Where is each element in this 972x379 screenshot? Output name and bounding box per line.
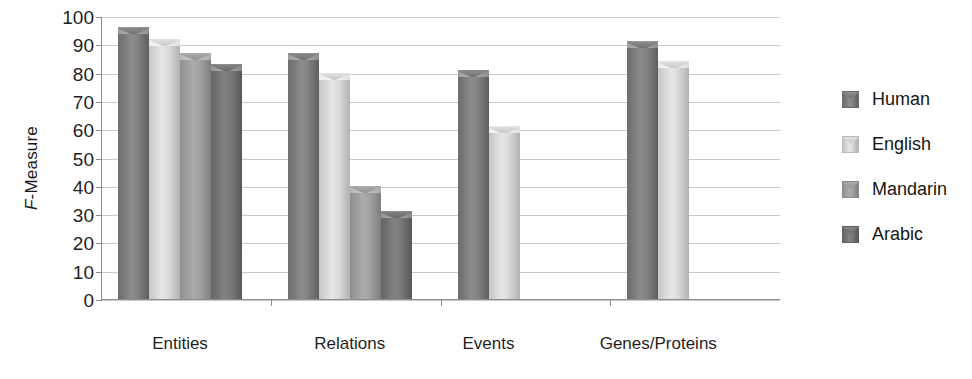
x-axis-tick-mark xyxy=(441,299,442,306)
gridline xyxy=(101,45,780,46)
y-axis-tick-label: 30 xyxy=(48,206,94,225)
y-axis-tick-mark xyxy=(96,17,102,18)
y-axis-tick-label: 50 xyxy=(48,149,94,168)
legend-label: Arabic xyxy=(872,225,923,243)
y-axis-tick-mark xyxy=(96,243,102,244)
bar-body xyxy=(458,77,489,299)
y-axis-tick-mark xyxy=(96,272,102,273)
bar-relations-human xyxy=(288,53,319,299)
y-axis-tick-mark xyxy=(96,102,102,103)
legend-label: English xyxy=(872,135,931,153)
x-axis-category-label: Entities xyxy=(152,334,208,354)
legend-swatch-icon xyxy=(842,91,859,108)
y-axis-tick-label: 100 xyxy=(48,8,94,27)
bar-events-human xyxy=(458,70,489,299)
legend-label: Human xyxy=(872,90,930,108)
y-axis-tick-label: 60 xyxy=(48,121,94,140)
y-axis-tick-label: 70 xyxy=(48,92,94,111)
y-axis-tick-mark xyxy=(96,159,102,160)
legend-swatch-icon xyxy=(842,181,859,198)
bar-relations-mandarin xyxy=(350,186,381,299)
bar-body xyxy=(658,68,689,299)
bar-body xyxy=(288,60,319,299)
bar-body xyxy=(118,34,149,299)
bar-entities-arabic xyxy=(211,64,242,299)
legend-item-english[interactable]: English xyxy=(842,135,947,153)
chart-legend: HumanEnglishMandarinArabic xyxy=(842,90,947,270)
y-axis-tick-mark xyxy=(96,45,102,46)
x-axis-category-label: Events xyxy=(463,334,515,354)
bar-entities-human xyxy=(118,27,149,299)
legend-swatch-icon xyxy=(842,226,859,243)
bar-events-english xyxy=(489,126,520,299)
x-axis-tick-mark xyxy=(271,299,272,306)
bar-body xyxy=(350,193,381,299)
y-axis-tick-label: 90 xyxy=(48,36,94,55)
y-axis-tick-mark xyxy=(96,187,102,188)
bar-body xyxy=(381,218,412,299)
y-axis-tick-mark xyxy=(96,74,102,75)
y-axis-tick-label: 20 xyxy=(48,234,94,253)
bar-entities-mandarin xyxy=(180,53,211,299)
y-axis-tick-mark xyxy=(96,215,102,216)
bar-chart: F-Measure 1009080706050403020100 Entitie… xyxy=(0,0,972,379)
y-axis-tick-label: 0 xyxy=(48,291,94,310)
bar-genes-proteins-english xyxy=(658,61,689,299)
y-axis-tick-label: 80 xyxy=(48,64,94,83)
bar-entities-english xyxy=(149,39,180,299)
bar-body xyxy=(489,133,520,299)
bar-relations-arabic xyxy=(381,211,412,299)
bar-body xyxy=(149,46,180,299)
x-axis-category-label: Genes/Proteins xyxy=(600,334,717,354)
x-axis-category-label: Relations xyxy=(314,334,385,354)
legend-item-human[interactable]: Human xyxy=(842,90,947,108)
y-axis-tick-labels: 1009080706050403020100 xyxy=(38,0,94,379)
bar-body xyxy=(319,80,350,299)
bar-body xyxy=(627,48,658,299)
legend-item-arabic[interactable]: Arabic xyxy=(842,225,947,243)
gridline xyxy=(101,17,780,18)
legend-swatch-icon xyxy=(842,136,859,153)
bar-body xyxy=(211,71,242,299)
legend-item-mandarin[interactable]: Mandarin xyxy=(842,180,947,198)
bar-relations-english xyxy=(319,73,350,299)
bar-body xyxy=(180,60,211,299)
bar-genes-proteins-human xyxy=(627,41,658,299)
y-axis-tick-label: 40 xyxy=(48,177,94,196)
y-axis-tick-label: 10 xyxy=(48,262,94,281)
y-axis-tick-mark xyxy=(96,300,102,301)
y-axis-tick-mark xyxy=(96,130,102,131)
legend-label: Mandarin xyxy=(872,180,947,198)
x-axis-tick-mark xyxy=(610,299,611,306)
plot-area xyxy=(101,17,780,300)
